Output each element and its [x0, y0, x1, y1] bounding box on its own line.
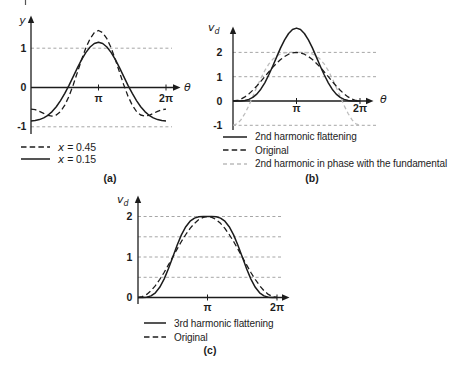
solid-line-key-icon — [20, 155, 51, 163]
y-axis-arrow-icon — [230, 27, 236, 35]
legend-label: Original — [255, 145, 289, 156]
legend-symbol: x — [58, 153, 64, 165]
dashed-line-key-icon — [222, 146, 248, 154]
legend-item: Original — [143, 330, 273, 344]
caption-c: (c) — [190, 344, 230, 356]
figure-canvas: y 1 0 -1 π 2π θ vd 2 1 0 -1 π 2π — [0, 0, 449, 371]
y-axis-arrow-icon — [28, 16, 34, 24]
legend-symbol: x — [58, 141, 64, 153]
y-tick-label: 2 — [216, 46, 222, 58]
plot-b: vd 2 1 0 -1 π 2π θ — [208, 21, 387, 131]
legend-label: x= 0.45 — [58, 141, 96, 153]
y-tick-label: 1 — [20, 42, 26, 54]
x-tick-label-pi: π — [203, 301, 211, 313]
legend-label: Original — [174, 332, 208, 343]
x-tick-label-pi: π — [292, 102, 300, 114]
y-axis-label: y — [18, 14, 26, 27]
legend-item: x= 0.15 — [20, 153, 96, 165]
legend-a: x= 0.45 x= 0.15 — [20, 141, 96, 165]
y-axis-label: vd — [208, 21, 221, 36]
y-tick-label: 1 — [216, 71, 222, 83]
y-axis-label: vd — [117, 193, 130, 208]
y-tick-label: 0 — [126, 291, 132, 303]
y-tick-label: 0 — [216, 95, 222, 107]
legend-label: x= 0.15 — [58, 153, 96, 165]
curve-2nd-harmonic-in-phase — [233, 52, 360, 125]
dashed-line-key-icon — [20, 143, 51, 151]
caption-b: (b) — [292, 172, 332, 184]
x-axis-arrow-icon — [173, 84, 181, 90]
y-tick-label: 1 — [126, 251, 132, 263]
y-tick-label: 2 — [126, 210, 132, 222]
light-dashed-line-key-icon — [222, 160, 248, 168]
legend-value: = 0.45 — [67, 141, 96, 153]
y-axis-arrow-icon — [135, 196, 141, 204]
y-tick-label: 0 — [20, 81, 26, 93]
plot-a: y 1 0 -1 π 2π θ — [17, 14, 191, 134]
plot-c: vd 2 1 0 π 2π — [117, 193, 290, 313]
legend-b: 2nd harmonic flattening Original 2nd har… — [222, 130, 447, 171]
x-axis-label: θ — [380, 93, 387, 106]
legend-value: = 0.15 — [67, 153, 96, 165]
x-axis-label: θ — [184, 81, 191, 94]
legend-label: 2nd harmonic flattening — [255, 131, 357, 142]
legend-item: x= 0.45 — [20, 141, 96, 153]
dashed-line-key-icon — [143, 333, 167, 341]
solid-line-key-icon — [222, 133, 248, 141]
legend-label: 2nd harmonic in phase with the fundament… — [255, 158, 447, 169]
legend-label: 3rd harmonic flattening — [174, 318, 273, 329]
caption-a: (a) — [90, 172, 130, 184]
x-tick-label-2pi: 2π — [159, 92, 173, 104]
legend-c: 3rd harmonic flattening Original — [143, 316, 273, 344]
legend-item: 3rd harmonic flattening — [143, 316, 273, 330]
x-axis-arrow-icon — [366, 98, 374, 104]
plot-c-gridlines — [138, 217, 283, 278]
legend-item: 2nd harmonic flattening — [222, 130, 447, 144]
legend-item: Original — [222, 144, 447, 158]
plot-b-gridlines — [233, 52, 378, 125]
x-tick-label-2pi: 2π — [270, 301, 284, 313]
x-tick-label-pi: π — [94, 92, 102, 104]
legend-item: 2nd harmonic in phase with the fundament… — [222, 157, 447, 171]
y-tick-label: -1 — [17, 120, 26, 132]
curve-x-0-15 — [31, 42, 166, 121]
x-tick-label-2pi: 2π — [353, 102, 367, 114]
solid-line-key-icon — [143, 319, 167, 327]
